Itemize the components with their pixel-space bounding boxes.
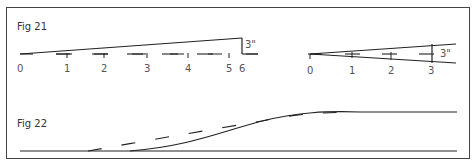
fig22-diagram xyxy=(20,112,457,151)
tick-5: 5 xyxy=(226,63,232,74)
frame-border xyxy=(7,8,470,159)
tick-0: 0 xyxy=(17,63,23,74)
dimension-label: 3" xyxy=(245,39,256,50)
tick-6: 6 xyxy=(239,63,245,74)
right-dimension-label: 3" xyxy=(440,48,451,59)
figure-canvas: Fig 21 0 1 2 3 4 5 6 3" xyxy=(0,0,476,167)
right-tick-0: 0 xyxy=(307,65,313,76)
right-tick-3: 3 xyxy=(428,65,434,76)
tick-1: 1 xyxy=(64,63,70,74)
tick-3: 3 xyxy=(144,63,150,74)
tick-2: 2 xyxy=(101,63,107,74)
tick-4: 4 xyxy=(185,63,191,74)
fig21-left-diagram: 0 1 2 3 4 5 6 3" xyxy=(17,38,258,74)
fig22-label: Fig 22 xyxy=(17,118,47,129)
fig21-right-diagram: 0 1 2 3 3" xyxy=(307,44,456,76)
right-tick-2: 2 xyxy=(388,65,394,76)
right-tick-1: 1 xyxy=(349,65,355,76)
fig21-label: Fig 21 xyxy=(17,21,47,32)
